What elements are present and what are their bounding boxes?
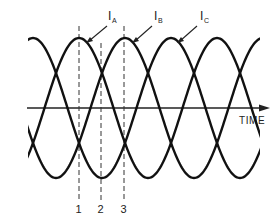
svg-text:C: C — [204, 17, 209, 24]
marker-label-1: 1 — [76, 203, 82, 215]
marker-label-3: 3 — [121, 203, 127, 215]
svg-text:I: I — [108, 9, 111, 23]
three-phase-waveform-diagram: TIME I A I B I C 1 2 3 — [0, 0, 280, 216]
time-axis-arrowhead-icon — [259, 105, 270, 112]
svg-text:B: B — [158, 17, 163, 24]
current-c-label: I C — [200, 9, 209, 24]
current-b-pointer — [135, 26, 152, 41]
svg-text:I: I — [154, 9, 157, 23]
svg-text:A: A — [112, 17, 117, 24]
svg-text:I: I — [200, 9, 203, 23]
marker-label-2: 2 — [98, 203, 104, 215]
time-axis-label: TIME — [239, 115, 265, 126]
current-c-pointer — [180, 26, 197, 41]
current-a-pointer — [89, 26, 107, 41]
current-b-label: I B — [154, 9, 163, 24]
current-a-label: I A — [108, 9, 117, 24]
